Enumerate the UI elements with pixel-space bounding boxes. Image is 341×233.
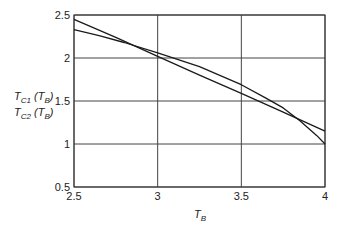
grid-lines [74,15,325,187]
series-line-2 [74,30,325,144]
series-line-1 [74,19,325,131]
y-tick-labels: 0.511.522.5 [55,9,70,193]
y-tick-label: 2.5 [55,9,70,21]
y-axis-label-line2: TC2 (TB) [14,106,54,121]
chart: 0.511.522.5 2.533.54 TB TC1 (TB) TC2 (TB… [0,0,341,233]
x-tick-labels: 2.533.54 [66,190,328,202]
x-tick-label: 3 [155,190,161,202]
x-tick-label: 3.5 [234,190,249,202]
y-axis-label-line1: TC1 (TB) [14,90,54,105]
y-tick-label: 1 [64,138,70,150]
x-tick-label: 2.5 [66,190,81,202]
y-tick-label: 1.5 [55,95,70,107]
y-tick-label: 2 [64,52,70,64]
y-axis-label: TC1 (TB) TC2 (TB) [14,90,54,121]
x-tick-label: 4 [322,190,328,202]
x-axis-label: TB [194,208,207,223]
series-group [74,19,325,144]
